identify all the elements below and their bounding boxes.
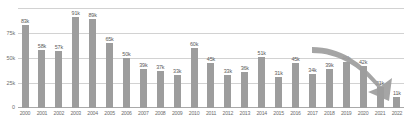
bar-chart: 75k 50k 25k 0 83k58k57k91k89k65k50k39k37…	[0, 0, 410, 136]
bar-value-label: 39k	[325, 62, 333, 68]
bar-column: 83k	[18, 8, 32, 108]
bar	[72, 17, 79, 108]
bar-value-label: 34k	[308, 67, 316, 73]
y-tick-50k: 50k	[7, 55, 15, 61]
bar	[123, 58, 130, 108]
bar-value-label: 37k	[156, 64, 164, 70]
bar	[224, 75, 231, 108]
bar-value-label: 33k	[224, 68, 232, 74]
x-tick-2018: 2018	[322, 110, 336, 116]
bar	[174, 75, 181, 108]
bar	[258, 57, 265, 108]
bar-column: 50k	[119, 8, 133, 108]
bar-value-label: 11k	[393, 90, 401, 96]
bar-value-label: 33k	[173, 68, 181, 74]
bar	[207, 63, 214, 108]
x-tick-2003: 2003	[69, 110, 83, 116]
bar-value-label: 45k	[291, 56, 299, 62]
bar	[393, 97, 400, 108]
bar-column: 45k	[204, 8, 218, 108]
x-tick-2012: 2012	[221, 110, 235, 116]
bar	[55, 51, 62, 108]
x-tick-2010: 2010	[187, 110, 201, 116]
x-tick-2001: 2001	[35, 110, 49, 116]
x-tick-2009: 2009	[170, 110, 184, 116]
bar-value-label: 42k	[359, 59, 367, 65]
bar-column: 46k	[339, 8, 353, 108]
bar-value-label: 39k	[139, 62, 147, 68]
bar-series: 83k58k57k91k89k65k50k39k37k33k60k45k33k3…	[18, 8, 404, 108]
bar-column: 65k	[103, 8, 117, 108]
bar	[292, 63, 299, 108]
x-tick-2005: 2005	[103, 110, 117, 116]
bar-column: 45k	[289, 8, 303, 108]
bar-value-label: 83k	[21, 18, 29, 24]
x-tick-2017: 2017	[305, 110, 319, 116]
bar-column: 31k	[272, 8, 286, 108]
y-tick-0: 0	[12, 104, 15, 110]
bar-value-label: 51k	[258, 50, 266, 56]
bar-column: 58k	[35, 8, 49, 108]
bar-column: 57k	[52, 8, 66, 108]
bar	[22, 25, 29, 108]
x-tick-2020: 2020	[356, 110, 370, 116]
bar	[360, 66, 367, 108]
plot-area: 75k 50k 25k 0 83k58k57k91k89k65k50k39k37…	[18, 8, 404, 108]
x-tick-2021: 2021	[373, 110, 387, 116]
y-tick-25k: 25k	[7, 80, 15, 86]
bar	[89, 19, 96, 108]
bar-column: 34k	[305, 8, 319, 108]
bar	[191, 48, 198, 108]
bar	[275, 77, 282, 108]
bar-column: 36k	[238, 8, 252, 108]
bar	[157, 71, 164, 108]
bar-value-label: 21k	[376, 80, 384, 86]
bar	[106, 43, 113, 108]
x-tick-2002: 2002	[52, 110, 66, 116]
bar-value-label: 91k	[72, 10, 80, 16]
bar-column: 91k	[69, 8, 83, 108]
bar-value-label: 58k	[38, 43, 46, 49]
bar-column: 33k	[170, 8, 184, 108]
bar-value-label: 89k	[89, 12, 97, 18]
x-tick-2000: 2000	[18, 110, 32, 116]
x-tick-2014: 2014	[255, 110, 269, 116]
bar	[241, 72, 248, 108]
bar-column: 89k	[86, 8, 100, 108]
bar-column: 42k	[356, 8, 370, 108]
bar-value-label: 65k	[105, 36, 113, 42]
bar	[326, 69, 333, 108]
x-tick-2013: 2013	[238, 110, 252, 116]
bar-column: 60k	[187, 8, 201, 108]
bar	[309, 74, 316, 108]
x-tick-2011: 2011	[204, 110, 218, 116]
bar-column: 21k	[373, 8, 387, 108]
y-tick-75k: 75k	[7, 30, 15, 36]
bar-value-label: 31k	[274, 70, 282, 76]
bar-column: 39k	[322, 8, 336, 108]
bar-value-label: 60k	[190, 41, 198, 47]
bar	[140, 69, 147, 108]
x-tick-2022: 2022	[390, 110, 404, 116]
bar	[343, 62, 350, 108]
bar-value-label: 45k	[207, 56, 215, 62]
bar-value-label: 57k	[55, 44, 63, 50]
x-tick-2007: 2007	[136, 110, 150, 116]
bar-value-label: 50k	[122, 51, 130, 57]
x-axis-labels: 2000200120022003200420052006200720082009…	[18, 110, 404, 116]
x-tick-2008: 2008	[153, 110, 167, 116]
bar-column: 51k	[255, 8, 269, 108]
bar-column: 11k	[390, 8, 404, 108]
x-tick-2019: 2019	[339, 110, 353, 116]
x-tick-2015: 2015	[272, 110, 286, 116]
x-tick-2004: 2004	[86, 110, 100, 116]
x-tick-2006: 2006	[119, 110, 133, 116]
x-tick-2016: 2016	[289, 110, 303, 116]
bar-column: 37k	[153, 8, 167, 108]
bar-column: 33k	[221, 8, 235, 108]
bar	[377, 87, 384, 108]
bar-column: 39k	[136, 8, 150, 108]
bar	[38, 50, 45, 108]
bar-value-label: 46k	[342, 55, 350, 61]
bar-value-label: 36k	[241, 65, 249, 71]
